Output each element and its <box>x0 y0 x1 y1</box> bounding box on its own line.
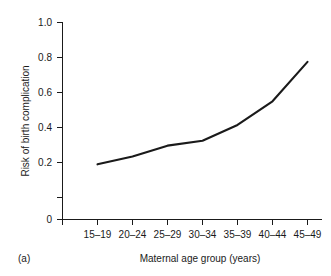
x-tick-label-1: 20–24 <box>119 229 147 240</box>
x-axis-ticks <box>63 220 308 226</box>
y-tick-label-0: 0 <box>46 214 52 225</box>
y-tick-label-3: 0.6 <box>38 87 52 98</box>
y-tick-label-2: 0.4 <box>38 122 52 133</box>
panel-label: (a) <box>18 253 30 264</box>
x-axis-title: Maternal age group (years) <box>140 253 261 264</box>
x-tick-label-5: 40–44 <box>259 229 287 240</box>
x-tick-label-4: 35–39 <box>224 229 252 240</box>
y-axis-title: Risk of birth complication <box>20 65 31 176</box>
y-tick-label-1: 0.2 <box>38 157 52 168</box>
x-tick-label-2: 25–29 <box>154 229 182 240</box>
line-chart: 1.0 0.8 0.6 0.4 0.2 0 15–19 20–24 25–29 … <box>0 0 331 276</box>
y-tick-label-4: 0.8 <box>38 52 52 63</box>
x-tick-label-6: 45–49 <box>294 229 322 240</box>
figure-panel-a: 1.0 0.8 0.6 0.4 0.2 0 15–19 20–24 25–29 … <box>0 0 331 276</box>
y-tick-label-5: 1.0 <box>38 17 52 28</box>
data-series-line <box>98 62 308 164</box>
x-tick-label-0: 15–19 <box>84 229 112 240</box>
x-tick-label-3: 30–34 <box>189 229 217 240</box>
y-axis-ticks <box>57 23 63 220</box>
